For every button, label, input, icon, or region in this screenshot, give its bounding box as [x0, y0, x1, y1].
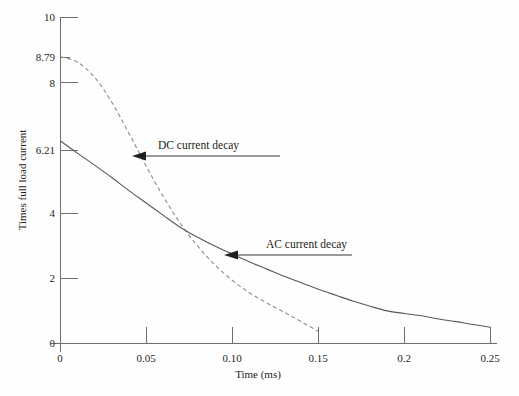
- figure-canvas: 0 2 4 6.21 8 8.79 10 0 0.05 0.10 0.15 0.…: [0, 0, 519, 396]
- annotation-ac-current-decay: AC current decay: [224, 238, 352, 260]
- x-axis-title: Time (ms): [235, 368, 281, 381]
- x-tick-label-015: 0.15: [308, 352, 328, 364]
- x-tick-label-010: 0.10: [222, 352, 242, 364]
- x-tick-label-025: 0.25: [480, 352, 500, 364]
- annotation-dc-current-decay: DC current decay: [132, 139, 280, 161]
- y-axis-ticks: [51, 17, 79, 343]
- y-axis-title: Times full load current: [16, 130, 28, 231]
- y-tick-label-8: 8: [50, 77, 56, 89]
- x-tick-label-005: 0.05: [136, 352, 156, 364]
- x-tick-label-0: 0: [57, 352, 63, 364]
- x-axis-ticks: [61, 327, 491, 352]
- y-tick-label-621: 6.21: [36, 144, 55, 156]
- dc-annotation-label: DC current decay: [158, 139, 239, 152]
- y-tick-label-10: 10: [44, 11, 56, 23]
- y-tick-label-879: 8.79: [36, 51, 56, 63]
- series-dc-current-decay: [61, 57, 319, 332]
- series-ac-current-decay: [61, 141, 491, 327]
- y-tick-label-2: 2: [50, 272, 56, 284]
- current-decay-chart: 0 2 4 6.21 8 8.79 10 0 0.05 0.10 0.15 0.…: [0, 0, 519, 396]
- ac-annotation-label: AC current decay: [266, 238, 347, 251]
- x-tick-label-020: 0.2: [397, 352, 411, 364]
- y-tick-label-4: 4: [50, 207, 56, 219]
- y-tick-label-0: 0: [50, 337, 56, 349]
